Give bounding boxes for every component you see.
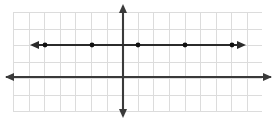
graph-canvas <box>0 0 277 121</box>
coordinate-graph-figure <box>0 0 277 121</box>
data-point-dot <box>43 43 48 48</box>
data-point-dot <box>136 43 141 48</box>
data-point-dot <box>230 43 235 48</box>
data-point-dot <box>183 43 188 48</box>
data-point-dot <box>90 43 95 48</box>
